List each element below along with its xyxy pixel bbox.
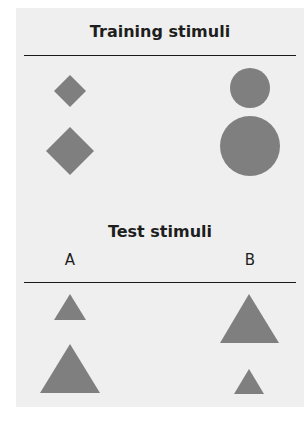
large-diamond-icon	[46, 127, 94, 175]
large-triangle-icon	[40, 344, 100, 393]
training-diamonds	[46, 75, 94, 175]
large-circle-icon	[220, 116, 280, 176]
test-column-b-triangles	[220, 294, 279, 394]
stimuli-shapes	[0, 0, 307, 423]
large-triangle-icon	[220, 294, 279, 343]
test-column-a-triangles	[40, 294, 100, 393]
small-circle-icon	[230, 68, 270, 108]
small-triangle-icon	[54, 294, 86, 320]
small-triangle-icon	[234, 369, 264, 394]
training-circles	[220, 68, 280, 176]
small-diamond-icon	[54, 75, 86, 107]
